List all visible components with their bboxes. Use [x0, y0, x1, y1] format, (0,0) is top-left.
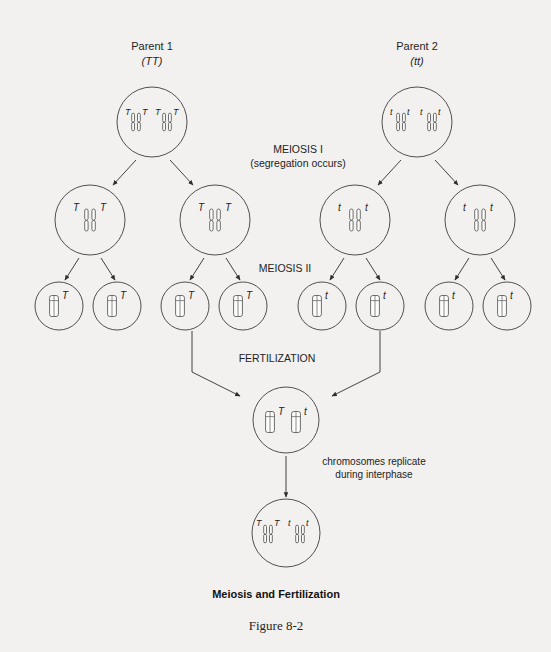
gamete-1: T	[35, 282, 83, 330]
parent-1-allele-2: T	[142, 107, 149, 117]
parent-2-allele-2: t	[407, 107, 410, 117]
parent-1-cell: T T T T	[117, 87, 187, 157]
parent-1-title: Parent 1	[131, 40, 173, 52]
parent-1-allele-3: T	[155, 107, 162, 117]
zygote-right-allele: t	[304, 406, 308, 417]
gamete-3: T	[161, 282, 209, 330]
replicated-allele-4: t	[306, 518, 309, 528]
gamete-8: t	[483, 282, 531, 330]
meiosis1-cell-1-left-allele: T	[73, 202, 80, 213]
meiosis1-cell-4: t t	[445, 185, 515, 255]
gamete-8-allele: t	[510, 290, 514, 301]
meiosis1-cell-4-right-allele: t	[490, 202, 494, 213]
interphase-note: chromosomes replicate during interphase	[322, 456, 426, 480]
figure-caption-number: Figure 8-2	[249, 618, 304, 633]
figure-caption-title: Meiosis and Fertilization	[212, 588, 340, 600]
gamete-1-allele: T	[62, 290, 69, 301]
parent-1-allele-1: T	[125, 107, 132, 117]
meiosis1-cell-3-left-allele: t	[338, 202, 342, 213]
meiosis1-cell-2-right-allele: T	[225, 202, 232, 213]
gamete-4-allele: T	[246, 290, 253, 301]
meiosis1-cell-3: t t	[320, 185, 390, 255]
gamete-7-allele: t	[452, 290, 456, 301]
meiosis1-cell-3-right-allele: t	[365, 202, 369, 213]
parent-2-allele-4: t	[438, 107, 441, 117]
parent-2-allele-3: t	[420, 107, 423, 117]
gamete-4: T	[219, 282, 267, 330]
figure-canvas: Parent 1 (TT) Parent 2 (tt) T T T T t t …	[0, 0, 551, 652]
meiosis-1-line2: (segregation occurs)	[250, 157, 346, 169]
parent-2-allele-1: t	[390, 107, 393, 117]
fertilization-label: FERTILIZATION	[239, 352, 316, 364]
gamete-5-allele: t	[325, 290, 329, 301]
parent-1-heading: Parent 1 (TT)	[131, 40, 173, 67]
parent-1-allele-4: T	[173, 107, 180, 117]
meiosis1-cell-2: T T	[180, 185, 250, 255]
replicated-allele-1: T	[256, 518, 263, 528]
zygote-left-allele: T	[278, 406, 285, 417]
meiosis-1-line1: MEIOSIS I	[273, 143, 323, 155]
meiosis-1-label: MEIOSIS I (segregation occurs)	[250, 143, 346, 169]
gamete-6: t	[356, 282, 404, 330]
replicated-allele-3: t	[288, 518, 291, 528]
meiosis1-cell-1-right-allele: T	[100, 202, 107, 213]
meiosis-2-label: MEIOSIS II	[259, 262, 312, 274]
zygote: T t	[253, 387, 319, 453]
parent-2-heading: Parent 2 (tt)	[396, 40, 438, 67]
parent-1-genotype: (TT)	[142, 55, 163, 67]
replicated-allele-2: T	[274, 518, 281, 528]
gamete-3-allele: T	[188, 290, 195, 301]
gamete-2: T	[93, 282, 141, 330]
parent-2-cell: t t t t	[382, 87, 452, 157]
replicated-zygote: T T t t	[252, 499, 320, 567]
gamete-6-allele: t	[383, 290, 387, 301]
interphase-line1: chromosomes replicate	[322, 456, 426, 467]
meiosis1-cell-4-left-allele: t	[463, 202, 467, 213]
gamete-7: t	[425, 282, 473, 330]
parent-2-title: Parent 2	[396, 40, 438, 52]
meiosis1-cell-1: T T	[55, 185, 125, 255]
interphase-line2: during interphase	[335, 469, 413, 480]
gamete-5: t	[298, 282, 346, 330]
meiosis1-cell-2-left-allele: T	[198, 202, 205, 213]
gamete-2-allele: T	[120, 290, 127, 301]
meiosis-diagram: Parent 1 (TT) Parent 2 (tt) T T T T t t …	[0, 0, 551, 652]
parent-2-genotype: (tt)	[410, 55, 424, 67]
